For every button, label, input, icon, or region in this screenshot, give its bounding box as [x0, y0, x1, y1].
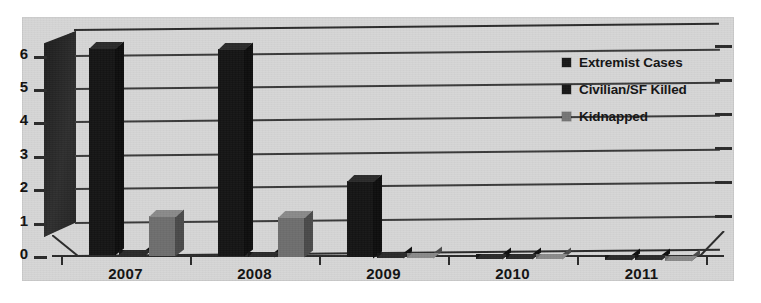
- legend-item-label: Civilian/SF Killed: [579, 82, 687, 97]
- y-axis-label-2: 2: [4, 178, 28, 195]
- y-axis-label-5: 5: [4, 78, 28, 95]
- y-tick-1: [34, 223, 47, 226]
- y-axis-label-3: 3: [4, 145, 28, 162]
- legend-swatch-icon: [562, 85, 571, 94]
- x-axis-label-2007: 2007: [86, 265, 166, 282]
- bar-2007-kidnapped: [149, 216, 176, 256]
- bar-2011-extremist-cases: [605, 255, 632, 260]
- y-tick-6: [34, 56, 47, 59]
- floor-left-bevel: [52, 235, 78, 257]
- gridline-2: [75, 182, 720, 190]
- x-tick-4: [577, 256, 579, 265]
- bar-front-face: [89, 48, 116, 255]
- y-tick-3: [34, 156, 47, 159]
- bar-2008-kidnapped: [278, 217, 305, 257]
- y-tick-0: [34, 256, 47, 259]
- bar-top-face: [407, 253, 439, 258]
- legend-swatch-icon: [562, 112, 571, 121]
- bar-2007-civilian-sf-killed: [119, 250, 146, 255]
- x-axis-label-2008: 2008: [215, 265, 295, 282]
- x-tick-5: [706, 256, 708, 265]
- bar-2010-kidnapped: [536, 254, 563, 259]
- bar-2009-extremist-cases: [347, 181, 374, 258]
- bar-top-face: [119, 250, 151, 255]
- bar-top-face: [665, 256, 697, 261]
- bar-top-face: [635, 255, 667, 260]
- y-tick-2: [34, 189, 47, 192]
- bar-front-face: [218, 49, 245, 256]
- bar-front-face: [347, 181, 374, 258]
- y-tick-right-3: [715, 147, 732, 150]
- y-axis-label-6: 6: [4, 45, 28, 62]
- x-tick-1: [190, 256, 192, 265]
- floor-right-bevel: [698, 231, 728, 259]
- bar-side-face: [373, 174, 382, 258]
- x-tick-3: [448, 256, 450, 265]
- gridline-3: [75, 149, 720, 157]
- x-axis-label-2010: 2010: [473, 265, 553, 282]
- bar-side-face: [244, 43, 253, 257]
- legend-item-kidnapped[interactable]: Kidnapped: [562, 109, 732, 124]
- bar-top-face: [476, 254, 508, 259]
- chart-top-edge: [74, 23, 719, 31]
- legend-item-label: Kidnapped: [579, 109, 648, 124]
- bar-top-face: [605, 255, 637, 260]
- x-tick-2: [319, 256, 321, 265]
- bar-top-face: [377, 253, 409, 258]
- bar-2008-extremist-cases: [218, 49, 245, 256]
- bar-2008-civilian-sf-killed: [248, 252, 275, 257]
- bar-top-face: [248, 252, 280, 257]
- y-tick-5: [34, 89, 47, 92]
- y-axis-label-4: 4: [4, 111, 28, 128]
- bar-side-face: [115, 41, 124, 255]
- x-axis-label-2009: 2009: [344, 265, 424, 282]
- bar-2007-extremist-cases: [89, 48, 116, 255]
- x-axis-label-2011: 2011: [602, 265, 682, 282]
- legend-item-civilian-sf-killed[interactable]: Civilian/SF Killed: [562, 82, 732, 97]
- bar-2010-extremist-cases: [476, 254, 503, 259]
- y-axis-label-0: 0: [4, 245, 28, 262]
- plot-area: 0123456 20072008200920102011 Extremist C…: [22, 17, 734, 281]
- chart-panel: 0123456 20072008200920102011 Extremist C…: [22, 17, 734, 281]
- bar-2011-kidnapped: [665, 256, 692, 261]
- x-tick-0: [61, 256, 63, 265]
- bar-2011-civilian-sf-killed: [635, 255, 662, 260]
- chart-legend: Extremist CasesCivilian/SF KilledKidnapp…: [562, 55, 732, 136]
- y-tick-right-1: [715, 215, 732, 218]
- bar-front-face: [149, 216, 176, 256]
- bar-top-face: [506, 254, 538, 259]
- y-tick-right-6: [715, 45, 732, 48]
- bar-2009-kidnapped: [407, 253, 434, 258]
- scanned-page: 0123456 20072008200920102011 Extremist C…: [0, 0, 761, 303]
- legend-item-label: Extremist Cases: [579, 55, 683, 70]
- legend-item-extremist-cases[interactable]: Extremist Cases: [562, 55, 732, 70]
- y-tick-right-2: [715, 181, 732, 184]
- y-axis-label-1: 1: [4, 212, 28, 229]
- bar-front-face: [278, 217, 305, 257]
- bar-2010-civilian-sf-killed: [506, 254, 533, 259]
- legend-swatch-icon: [562, 58, 571, 67]
- bar-top-face: [536, 254, 568, 259]
- chart-left-wall-shade: [44, 31, 76, 237]
- bar-2009-civilian-sf-killed: [377, 253, 404, 258]
- y-tick-4: [34, 122, 47, 125]
